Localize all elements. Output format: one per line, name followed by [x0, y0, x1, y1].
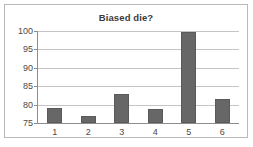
bar[interactable] [114, 94, 129, 123]
bar-slot: 1 [38, 31, 72, 123]
x-axis-tick-label: 1 [38, 127, 72, 137]
plot-area: 7580859095100 123456 [38, 31, 239, 123]
chart-title: Biased die? [5, 12, 247, 23]
bar[interactable] [181, 32, 196, 123]
bar[interactable] [148, 109, 163, 123]
bar-slot: 6 [206, 31, 240, 123]
bar-slot: 5 [172, 31, 206, 123]
y-axis-tick-label: 95 [23, 44, 33, 54]
bar[interactable] [81, 116, 96, 123]
y-axis-tick-label: 85 [23, 81, 33, 91]
x-axis-line [37, 123, 239, 124]
y-axis-tick-label: 75 [23, 118, 33, 128]
y-axis-tick-label: 80 [23, 100, 33, 110]
chart-frame: Biased die? 7580859095100 123456 [4, 4, 248, 138]
x-axis-tick-label: 3 [105, 127, 139, 137]
y-axis-tick-mark [34, 123, 38, 124]
bar-series: 123456 [38, 31, 239, 123]
bar-slot: 2 [72, 31, 106, 123]
bar-slot: 3 [105, 31, 139, 123]
x-axis-tick-label: 4 [139, 127, 173, 137]
x-axis-tick-label: 5 [172, 127, 206, 137]
bar-slot: 4 [139, 31, 173, 123]
bar[interactable] [215, 99, 230, 123]
x-axis-tick-label: 2 [72, 127, 106, 137]
x-axis-tick-label: 6 [206, 127, 240, 137]
y-axis-tick-label: 100 [18, 26, 33, 36]
y-axis-tick-label: 90 [23, 63, 33, 73]
bar[interactable] [47, 108, 62, 123]
